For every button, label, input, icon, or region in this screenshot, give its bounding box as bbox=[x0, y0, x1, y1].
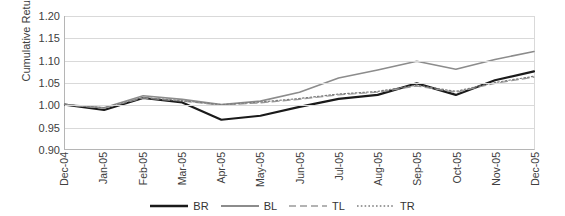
x-axis-tick-label: Jul-05 bbox=[333, 152, 345, 196]
x-axis-tick-label: Nov-05 bbox=[490, 152, 502, 196]
legend-label: BL bbox=[264, 201, 277, 212]
y-axis-tick-label: 1.10 bbox=[4, 55, 60, 67]
gridline bbox=[65, 38, 534, 39]
x-axis-tick-label: May-05 bbox=[254, 152, 266, 196]
y-axis-tick-labels: 1.201.151.101.051.000.950.90 bbox=[0, 16, 60, 150]
chart-container: Cumulative Return 1.201.151.101.051.000.… bbox=[0, 0, 565, 216]
y-axis-tick-label: 1.20 bbox=[4, 10, 60, 22]
gridline bbox=[65, 83, 534, 84]
x-axis-tick-label: Sep-05 bbox=[411, 152, 423, 196]
legend-swatch-br-icon bbox=[150, 201, 188, 211]
legend-label: TR bbox=[400, 201, 415, 212]
legend-label: TL bbox=[332, 201, 345, 212]
y-axis-tick-label: 0.90 bbox=[4, 144, 60, 156]
x-axis-tick-label: Apr-05 bbox=[215, 152, 227, 196]
gridline bbox=[65, 128, 534, 129]
y-axis-tick-label: 0.95 bbox=[4, 122, 60, 134]
gridline bbox=[65, 16, 534, 17]
legend-label: BR bbox=[193, 201, 208, 212]
x-axis-tick-label: Jan-05 bbox=[97, 152, 109, 196]
x-axis-tick-label: Jun-05 bbox=[294, 152, 306, 196]
x-axis-tick-label: Dec-04 bbox=[58, 152, 70, 196]
x-axis-tick-label: Oct-05 bbox=[451, 152, 463, 196]
plot-area bbox=[64, 16, 535, 150]
legend-item-tl[interactable]: TL bbox=[289, 201, 345, 212]
y-axis-tick-label: 1.00 bbox=[4, 99, 60, 111]
y-axis-tick-label: 1.15 bbox=[4, 32, 60, 44]
x-axis-tick-label: Dec-05 bbox=[529, 152, 541, 196]
x-axis-tick-labels: Dec-04Jan-05Feb-05Mar-05Apr-05May-05Jun-… bbox=[64, 152, 535, 196]
series-line-br bbox=[65, 71, 534, 119]
x-axis-tick-label: Aug-05 bbox=[372, 152, 384, 196]
gridline bbox=[65, 105, 534, 106]
y-axis-tick-label: 1.05 bbox=[4, 77, 60, 89]
legend-item-br[interactable]: BR bbox=[150, 201, 208, 212]
legend-item-tr[interactable]: TR bbox=[357, 201, 415, 212]
chart-legend: BRBLTLTR bbox=[0, 198, 565, 214]
x-axis-tick-label: Mar-05 bbox=[176, 152, 188, 196]
legend-swatch-tl-icon bbox=[289, 201, 327, 211]
legend-swatch-bl-icon bbox=[221, 201, 259, 211]
x-axis-tick-label: Feb-05 bbox=[137, 152, 149, 196]
gridline bbox=[65, 61, 534, 62]
legend-item-bl[interactable]: BL bbox=[221, 201, 277, 212]
legend-swatch-tr-icon bbox=[357, 201, 395, 211]
